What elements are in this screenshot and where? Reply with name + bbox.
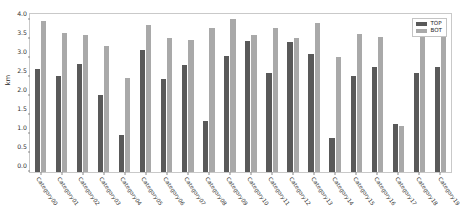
bar-top	[77, 64, 82, 172]
x-label-slot: Category10	[241, 174, 262, 223]
bar-group	[409, 14, 430, 172]
bar-bot	[188, 40, 193, 172]
bar-top	[35, 69, 40, 172]
x-label-slot: Category19	[431, 174, 452, 223]
legend-label: BOT	[430, 28, 442, 34]
bar-group	[346, 14, 367, 172]
x-label-slot: Category08	[198, 174, 219, 223]
x-tick-label: Category19	[437, 176, 461, 207]
x-label-slot: Category13	[304, 174, 325, 223]
bar-top	[308, 54, 313, 172]
x-label-slot: Category18	[410, 174, 431, 223]
bar-top	[329, 138, 334, 172]
bar-bot	[441, 28, 446, 172]
bar-top	[351, 76, 356, 172]
bar-bot	[273, 28, 278, 172]
x-label-slot: Category03	[92, 174, 113, 223]
bar-bot	[209, 28, 214, 172]
x-label-slot: Category04	[114, 174, 135, 223]
x-label-slot: Category02	[71, 174, 92, 223]
bar-top	[224, 56, 229, 173]
y-tick-label: 1.5	[17, 104, 30, 111]
y-tick-label: 1.0	[17, 123, 30, 130]
bar-bot	[125, 78, 130, 172]
legend-entry: TOP	[416, 21, 442, 27]
bar-group	[177, 14, 198, 172]
bar-bot	[357, 34, 362, 172]
x-label-slot: Category01	[50, 174, 71, 223]
y-tick-label: 2.0	[17, 85, 30, 92]
bar-group	[367, 14, 388, 172]
bar-group	[283, 14, 304, 172]
y-tick-label: 0.5	[17, 142, 30, 149]
bar-group	[430, 14, 451, 172]
bar-bot	[294, 38, 299, 172]
bar-groups	[30, 14, 451, 172]
x-label-slot: Category05	[135, 174, 156, 223]
bar-top	[266, 73, 271, 172]
bar-top	[161, 79, 166, 172]
bar-group	[388, 14, 409, 172]
bar-bot	[336, 57, 341, 172]
legend-swatch	[416, 22, 427, 26]
bar-bot	[62, 33, 67, 172]
x-label-slot: Category09	[219, 174, 240, 223]
bar-group	[93, 14, 114, 172]
bar-top	[372, 67, 377, 172]
bar-bot	[378, 37, 383, 172]
bar-top	[393, 124, 398, 172]
x-label-slot: Category11	[262, 174, 283, 223]
bar-group	[114, 14, 135, 172]
bar-top	[98, 95, 103, 172]
x-label-slot: Category16	[368, 174, 389, 223]
bar-bot	[420, 32, 425, 172]
bar-group	[262, 14, 283, 172]
x-label-slot: Category14	[325, 174, 346, 223]
bar-bot	[315, 23, 320, 172]
bar-group	[219, 14, 240, 172]
bar-group	[51, 14, 72, 172]
bar-bot	[167, 38, 172, 172]
bar-top	[140, 50, 145, 172]
bar-top	[414, 73, 419, 172]
y-tick-label: 2.5	[17, 66, 30, 73]
bar-top	[182, 65, 187, 172]
bar-group	[240, 14, 261, 172]
x-axis-labels: Category00Category01Category02Category03…	[29, 174, 452, 223]
y-tick-label: 4.0	[17, 9, 30, 16]
bar-bot	[230, 19, 235, 172]
bar-top	[203, 121, 208, 172]
bar-group	[72, 14, 93, 172]
x-label-slot: Category07	[177, 174, 198, 223]
legend: TOPBOT	[412, 18, 447, 37]
bar-top	[287, 42, 292, 172]
plot-area: 0.00.51.01.52.02.53.03.54.0 TOPBOT	[29, 13, 452, 173]
bar-group	[325, 14, 346, 172]
bar-bot	[251, 35, 256, 172]
legend-swatch	[416, 29, 427, 33]
y-tick-label: 3.0	[17, 47, 30, 54]
x-label-slot: Category12	[283, 174, 304, 223]
legend-label: TOP	[430, 21, 441, 27]
bar-group	[30, 14, 51, 172]
y-tick-label: 3.5	[17, 28, 30, 35]
bar-group	[156, 14, 177, 172]
bar-bot	[399, 126, 404, 172]
x-label-slot: Category15	[346, 174, 367, 223]
x-label-slot: Category00	[29, 174, 50, 223]
bar-bot	[146, 25, 151, 172]
bar-bot	[41, 21, 46, 172]
y-tick-label: 0.0	[17, 162, 30, 169]
bar-group	[304, 14, 325, 172]
x-label-slot: Category17	[389, 174, 410, 223]
bar-bot	[104, 46, 109, 172]
bar-top	[56, 76, 61, 172]
y-axis-label: km	[4, 74, 12, 86]
x-label-slot: Category06	[156, 174, 177, 223]
bar-bot	[83, 35, 88, 172]
bar-group	[135, 14, 156, 172]
bar-group	[198, 14, 219, 172]
bar-top	[435, 67, 440, 172]
bar-top	[119, 135, 124, 172]
